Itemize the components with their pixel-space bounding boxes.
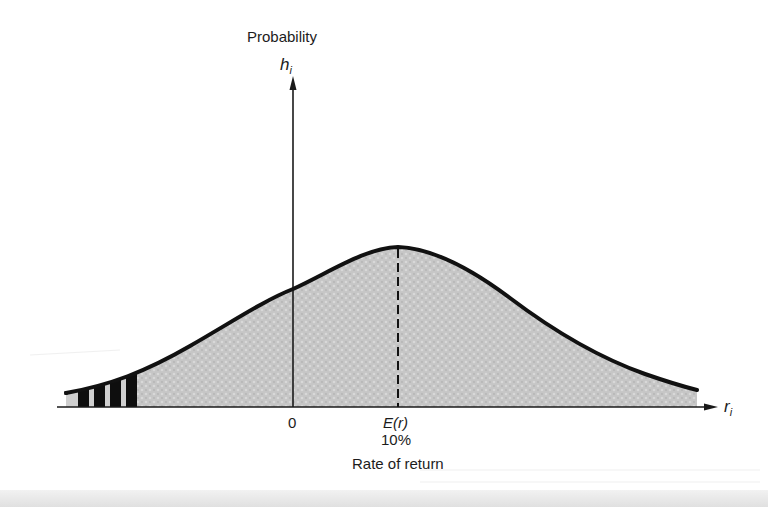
- distribution-fill: [66, 247, 697, 407]
- y-axis-subscript: i: [289, 64, 291, 76]
- x-tick-expected-return: E(r): [383, 415, 408, 430]
- x-axis-symbol: r: [724, 397, 730, 416]
- x-tick-zero: 0: [288, 415, 296, 430]
- distribution-area: [66, 247, 697, 407]
- y-axis-variable: hi: [280, 56, 292, 73]
- y-axis-arrow-icon: [290, 76, 297, 90]
- expected-return-symbol: E: [383, 414, 393, 431]
- expected-return-argument: (r): [393, 414, 408, 431]
- x-axis-title: Rate of return: [352, 456, 444, 471]
- x-axis-arrow-icon: [704, 404, 718, 411]
- y-axis-title: Probability: [247, 29, 317, 44]
- x-tick-expected-return-value: 10%: [381, 432, 411, 447]
- page-bottom-edge: [0, 490, 768, 507]
- x-axis-variable: ri: [724, 398, 732, 415]
- x-axis-subscript: i: [730, 406, 732, 418]
